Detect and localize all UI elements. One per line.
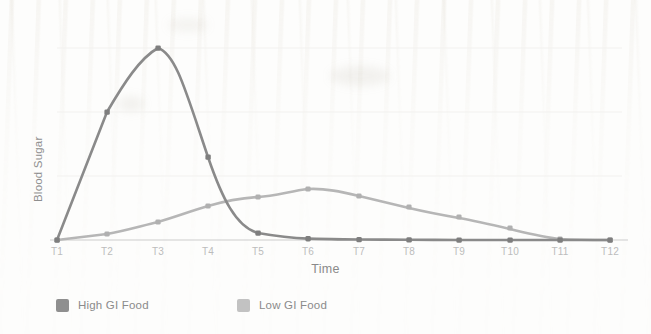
- legend-swatch-high-gi-food: [56, 299, 69, 312]
- x-tick-label-t7: T7: [342, 246, 376, 257]
- x-tick-label-t4: T4: [191, 246, 225, 257]
- gridlines: [57, 48, 622, 176]
- x-tick-label-t2: T2: [90, 246, 124, 257]
- x-axis-label: Time: [0, 262, 651, 276]
- x-tick-label-t12: T12: [593, 246, 627, 257]
- legend-label-high-gi-food: High GI Food: [78, 299, 149, 311]
- x-tick-label-t3: T3: [141, 246, 175, 257]
- series-high-gi-markers: [54, 45, 612, 242]
- y-axis-label: Blood Sugar: [30, 186, 160, 202]
- series-high-gi-food: [54, 45, 612, 242]
- legend-item-low-gi-food[interactable]: Low GI Food: [237, 294, 327, 316]
- x-tick-label-t1: T1: [40, 246, 74, 257]
- series-high-gi-line: [57, 48, 610, 240]
- chart-container: Blood Sugar T1 T2 T3 T4 T5 T6 T7 T8 T9 T…: [0, 0, 651, 334]
- x-tick-label-t6: T6: [291, 246, 325, 257]
- chart-legend: High GI Food Low GI Food: [0, 294, 651, 320]
- legend-item-high-gi-food[interactable]: High GI Food: [56, 294, 149, 316]
- plot-area: [0, 0, 651, 334]
- x-tick-label-t11: T11: [543, 246, 577, 257]
- x-tick-label-t8: T8: [392, 246, 426, 257]
- legend-label-low-gi-food: Low GI Food: [259, 299, 327, 311]
- legend-swatch-low-gi-food: [237, 299, 250, 312]
- x-tick-label-t10: T10: [493, 246, 527, 257]
- x-tick-label-t9: T9: [442, 246, 476, 257]
- x-tick-label-t5: T5: [241, 246, 275, 257]
